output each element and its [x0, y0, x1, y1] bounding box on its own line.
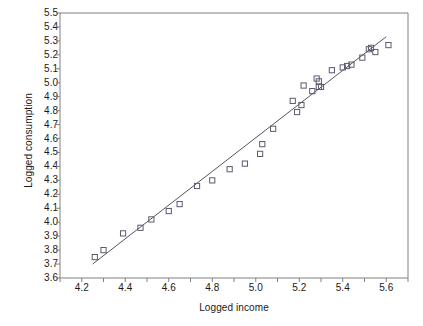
- plot-canvas: [0, 0, 423, 326]
- plot-frame: [60, 13, 408, 278]
- data-point: [227, 167, 232, 172]
- data-point: [301, 83, 306, 88]
- data-point: [101, 248, 106, 253]
- data-points: [92, 42, 391, 259]
- regression-line: [93, 37, 387, 264]
- data-point: [177, 201, 182, 206]
- data-point: [242, 161, 247, 166]
- data-point: [120, 231, 125, 236]
- data-point: [92, 254, 97, 259]
- data-point: [260, 142, 265, 147]
- data-point: [386, 42, 391, 47]
- data-point: [166, 208, 171, 213]
- data-point: [329, 68, 334, 73]
- data-point: [290, 98, 295, 103]
- data-point: [210, 178, 215, 183]
- data-point: [271, 126, 276, 131]
- axis-ticks: [56, 13, 408, 282]
- data-point: [258, 151, 263, 156]
- scatter-plot-figure: Logged consumption 3.63.73.83.94.04.14.2…: [0, 0, 423, 326]
- data-point: [294, 109, 299, 114]
